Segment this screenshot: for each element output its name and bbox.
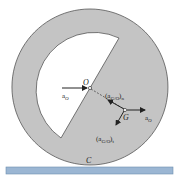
- label-O: O: [83, 78, 89, 87]
- label-a-O-left: aO: [62, 92, 69, 101]
- rolling-disk-diagram: O aO (aG/O)n G aO (aG/O)t C: [0, 0, 179, 182]
- label-G: G: [123, 113, 129, 122]
- ground-surface: [6, 167, 173, 174]
- label-C: C: [86, 156, 92, 165]
